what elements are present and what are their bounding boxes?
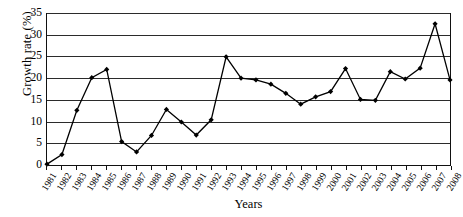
x-axis-tick-mark <box>121 166 122 170</box>
x-axis-tick-mark <box>166 166 167 170</box>
x-axis-tick-label: 1983 <box>70 171 88 192</box>
x-axis-tick-mark <box>136 166 137 170</box>
x-axis-tick-label: 1992 <box>205 171 223 192</box>
data-point-marker <box>253 77 258 82</box>
data-point-marker <box>74 108 79 113</box>
y-axis-tick-label: 15 <box>31 94 43 106</box>
x-axis-tick-mark <box>421 166 422 170</box>
y-axis-tick-label: 5 <box>36 138 42 150</box>
data-point-marker <box>388 69 393 74</box>
x-axis-tick-mark <box>391 166 392 170</box>
x-axis-tick-label: 1994 <box>235 171 253 192</box>
data-point-marker <box>373 98 378 103</box>
x-axis-tick-label: 2007 <box>430 171 448 192</box>
x-axis-tick-label: 1993 <box>220 171 238 192</box>
y-axis-tick-label: 0 <box>36 159 42 171</box>
y-axis-tick-label: 10 <box>31 116 43 128</box>
x-axis-tick-mark <box>61 166 62 170</box>
x-axis-tick-mark <box>151 166 152 170</box>
x-axis-tick-label: 1996 <box>265 171 283 192</box>
data-series-svg <box>47 13 450 165</box>
x-axis-tick-mark <box>361 166 362 170</box>
data-point-marker <box>104 67 109 72</box>
data-point-marker <box>447 77 452 82</box>
x-axis-tick-label: 2003 <box>370 171 388 192</box>
data-point-markers <box>44 21 452 166</box>
data-point-marker <box>432 21 437 26</box>
x-axis-tick-label: 1981 <box>40 171 58 192</box>
growth-rate-line <box>47 24 450 164</box>
x-axis-tick-mark <box>376 166 377 170</box>
x-axis-tick-label: 1988 <box>145 171 163 192</box>
x-axis-tick-mark <box>91 166 92 170</box>
x-axis-tick-mark <box>106 166 107 170</box>
x-axis-tick-label: 1999 <box>310 171 328 192</box>
x-axis-tick-label: 1998 <box>295 171 313 192</box>
x-axis-tick-label: 2000 <box>325 171 343 192</box>
x-axis-tick-mark <box>196 166 197 170</box>
x-axis-tick-mark <box>406 166 407 170</box>
x-axis-tick-mark <box>436 166 437 170</box>
y-axis-tick-label: 35 <box>31 7 43 19</box>
x-axis-tick-mark <box>271 166 272 170</box>
x-axis-tick-label: 1991 <box>190 171 208 192</box>
x-axis-tick-label: 1984 <box>85 171 103 192</box>
x-axis-tick-label: 1985 <box>100 171 118 192</box>
x-axis-tick-mark <box>46 166 47 170</box>
x-axis-tick-label: 1989 <box>160 171 178 192</box>
plot-area <box>46 13 451 165</box>
x-axis-tick-label: 2006 <box>415 171 433 192</box>
data-point-marker <box>313 94 318 99</box>
x-axis-tick-mark <box>241 166 242 170</box>
x-axis-tick-mark <box>316 166 317 170</box>
x-axis-tick-label: 2004 <box>385 171 403 192</box>
x-axis-title: Years <box>46 197 451 212</box>
data-point-marker <box>89 75 94 80</box>
x-axis-tick-label: 2005 <box>400 171 418 192</box>
x-axis-tick-mark <box>301 166 302 170</box>
x-axis-tick-label: 1982 <box>55 171 73 192</box>
x-axis-tick-mark <box>76 166 77 170</box>
y-axis-tick-label: 25 <box>31 51 43 63</box>
x-axis-tick-label: 2002 <box>355 171 373 192</box>
x-axis-tick-mark <box>346 166 347 170</box>
x-axis-tick-label: 1986 <box>115 171 133 192</box>
data-point-marker <box>358 97 363 102</box>
x-axis-tick-mark <box>211 166 212 170</box>
x-axis-tick-mark <box>181 166 182 170</box>
x-axis-tick-mark <box>286 166 287 170</box>
x-axis-tick-label: 2008 <box>445 171 463 192</box>
y-axis-tick-labels: 05101520253035 <box>16 0 42 217</box>
y-axis-tick-label: 30 <box>31 29 43 41</box>
x-axis-tick-label: 2001 <box>340 171 358 192</box>
x-axis-tick-label: 1990 <box>175 171 193 192</box>
x-axis-tick-mark <box>226 166 227 170</box>
x-axis-tick-label: 1995 <box>250 171 268 192</box>
y-axis-tick-label: 20 <box>31 72 43 84</box>
x-axis-tick-mark <box>451 166 452 170</box>
x-axis-tick-mark <box>256 166 257 170</box>
x-axis-tick-mark <box>331 166 332 170</box>
x-axis-tick-label: 1997 <box>280 171 298 192</box>
x-axis-tick-label: 1987 <box>130 171 148 192</box>
